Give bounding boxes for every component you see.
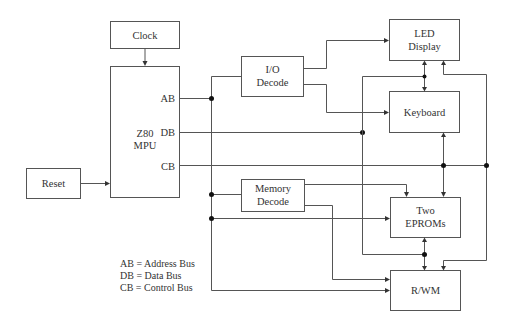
arrow-down-icon: [404, 192, 409, 197]
arrow-up-icon: [422, 238, 427, 243]
memory-decode-label-line2: Decode: [257, 196, 289, 207]
clock-label: Clock: [132, 30, 158, 41]
arrow-down-icon: [143, 61, 148, 66]
junction-dot: [423, 75, 427, 79]
mpu-label-line1: Z80: [137, 128, 154, 139]
rwm-label: R/WM: [411, 285, 441, 296]
junction-dot: [209, 96, 214, 101]
io-decode-block: I/O Decode: [242, 57, 304, 97]
arrow-down-icon: [441, 266, 446, 271]
eproms-label-line1: Two: [416, 205, 435, 216]
led-display-block: LED Display: [390, 20, 460, 61]
arrow-right-icon: [384, 110, 389, 115]
junction-dot: [484, 163, 489, 168]
arrow-up-icon: [422, 61, 427, 66]
arrow-right-icon: [384, 38, 389, 43]
mpu-port-db: DB: [160, 127, 175, 138]
keyboard-label: Keyboard: [404, 107, 446, 118]
legend-address-bus: AB = Address Bus: [120, 258, 195, 269]
mpu-port-ab: AB: [160, 93, 175, 104]
legend-data-bus: DB = Data Bus: [120, 270, 182, 281]
mpu-port-cb: CB: [161, 161, 175, 172]
memory-decode-block: Memory Decode: [242, 180, 305, 212]
reset-label: Reset: [42, 178, 65, 189]
junction-dot: [422, 252, 427, 257]
arrow-right-icon: [105, 181, 110, 186]
arrow-right-icon: [385, 277, 390, 282]
keyboard-block: Keyboard: [390, 92, 460, 133]
arrow-up-icon: [441, 133, 446, 138]
junction-dot: [209, 192, 214, 197]
clock-to-mpu-wire: [143, 49, 148, 67]
arrow-right-icon: [385, 216, 390, 221]
arrow-down-icon: [422, 87, 427, 92]
arrow-down-icon: [422, 266, 427, 271]
mpu-label-line2: MPU: [134, 140, 157, 151]
junction-dot: [209, 216, 214, 221]
reset-block: Reset: [27, 169, 81, 199]
legend-control-bus: CB = Control Bus: [120, 282, 193, 293]
memory-decode-label-line1: Memory: [255, 183, 292, 194]
clock-block: Clock: [111, 22, 180, 49]
block-diagram: Clock Z80 MPU AB DB CB Reset I/O Decode …: [0, 0, 511, 321]
z80-mpu-block: Z80 MPU AB DB CB: [111, 67, 180, 198]
eproms-block: Two EPROMs: [391, 198, 461, 238]
io-decode-label-line1: I/O: [266, 64, 280, 75]
arrow-right-icon: [385, 288, 390, 293]
arrow-down-icon: [441, 192, 446, 197]
arrow-up-icon: [441, 61, 446, 66]
led-display-label-line2: Display: [408, 41, 441, 52]
io-decode-label-line2: Decode: [256, 77, 288, 88]
eproms-label-line2: EPROMs: [405, 218, 445, 229]
rwm-block: R/WM: [391, 271, 461, 311]
legend: AB = Address Bus DB = Data Bus CB = Cont…: [120, 258, 195, 293]
led-display-label-line1: LED: [414, 28, 435, 39]
reset-to-mpu-wire: [81, 181, 111, 186]
junction-dot: [441, 163, 446, 168]
